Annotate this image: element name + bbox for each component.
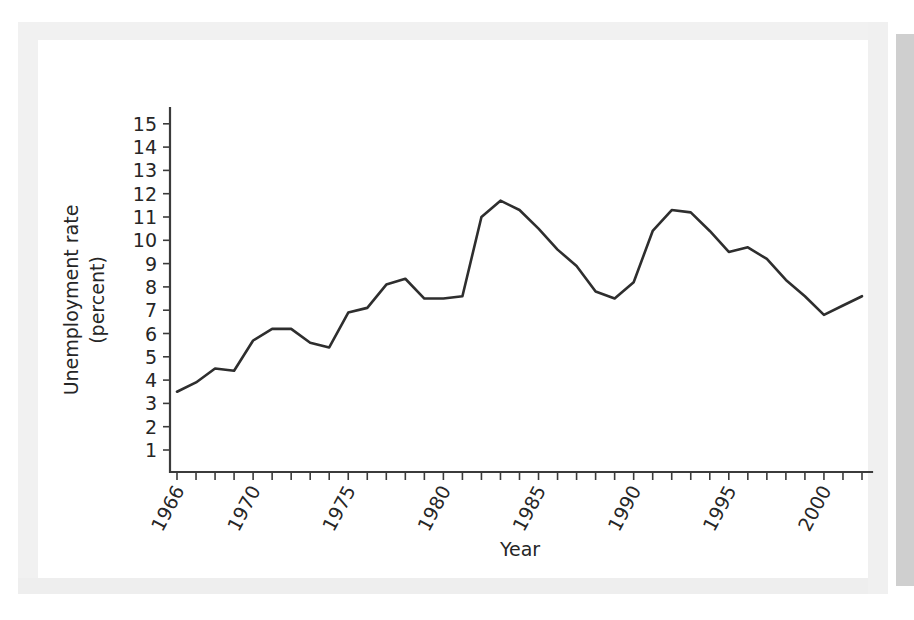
axis-lines xyxy=(170,108,872,472)
y-tick-label: 14 xyxy=(133,136,157,158)
x-tick-label: 1970 xyxy=(223,482,265,535)
x-axis-title: Year xyxy=(499,538,540,560)
y-tick-label: 6 xyxy=(145,323,157,345)
x-tick-label: 1966 xyxy=(146,482,188,535)
y-tick-label: 10 xyxy=(133,229,157,251)
x-tick-label: 2000 xyxy=(793,482,835,535)
y-tick-label: 13 xyxy=(133,159,157,181)
y-axis-title: Unemployment rate (percent) xyxy=(60,205,108,396)
y-tick-label: 9 xyxy=(145,253,157,275)
x-tick-label: 1975 xyxy=(318,482,360,535)
chart-axes xyxy=(170,108,872,472)
x-tick-label: 1980 xyxy=(413,482,455,535)
chart-container: 123456789101112131415 196619701975198019… xyxy=(0,0,914,620)
y-tick-label: 5 xyxy=(145,346,157,368)
y-tick-label: 2 xyxy=(145,416,157,438)
x-tick-label: 1990 xyxy=(603,482,645,535)
y-axis-title-line2: (percent) xyxy=(86,256,108,344)
y-axis-ticks: 123456789101112131415 xyxy=(133,113,170,461)
y-tick-label: 15 xyxy=(133,113,157,135)
series-group xyxy=(177,201,862,392)
y-axis-title-line1: Unemployment rate xyxy=(60,205,82,396)
y-tick-label: 12 xyxy=(133,183,157,205)
y-tick-label: 8 xyxy=(145,276,157,298)
y-tick-label: 3 xyxy=(145,392,157,414)
y-tick-label: 11 xyxy=(133,206,157,228)
y-tick-label: 4 xyxy=(145,369,157,391)
x-tick-label: 1995 xyxy=(698,482,740,535)
screenshot-page: 123456789101112131415 196619701975198019… xyxy=(0,0,914,620)
y-tick-label: 1 xyxy=(145,439,157,461)
y-tick-label: 7 xyxy=(145,299,157,321)
unemployment-rate-line-chart: 123456789101112131415 196619701975198019… xyxy=(0,0,914,620)
data-line-unemployment-rate xyxy=(177,201,862,392)
x-axis-ticks: 19661970197519801985199019952000 xyxy=(146,472,862,535)
x-tick-label: 1985 xyxy=(508,482,550,535)
